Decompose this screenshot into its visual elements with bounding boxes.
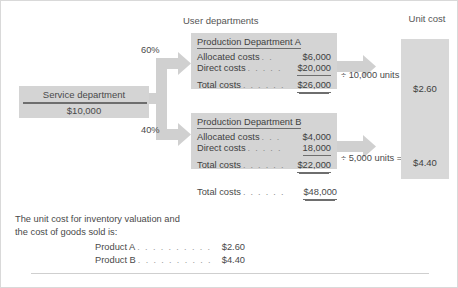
row-value: 18,000 (303, 143, 331, 156)
row-value: $6,000 (303, 52, 331, 64)
user-departments-header: User departments (183, 15, 259, 26)
unit-cost-header: Unit cost (399, 13, 455, 24)
table-row: Direct costs . . . . . $20,000 (197, 63, 331, 76)
row-value: $48,000 (303, 187, 337, 200)
row-value: $20,000 (297, 63, 331, 76)
dot-leader: . . . . . . (243, 187, 301, 199)
row-label: Product B (95, 254, 136, 267)
row-label: Allocated costs (197, 52, 260, 64)
summary-note-line2: the cost of goods sold is: (15, 226, 315, 239)
table-row: Direct costs . . . . . 18,000 (197, 143, 331, 156)
divisor-b: ÷ 5,000 units = (341, 153, 402, 163)
row-label: Total costs (197, 160, 241, 172)
dot-leader: . . . . . . . . . . (137, 241, 219, 254)
list-item: Product A . . . . . . . . . . $2.60 (95, 241, 245, 254)
service-department-divider (23, 102, 147, 104)
row-value: $26,000 (297, 80, 331, 93)
row-label: Allocated costs (197, 132, 260, 144)
divisor-a: ÷ 10,000 units = (341, 70, 407, 80)
service-department-amount: $10,000 (19, 105, 149, 116)
unit-cost-value-b: $4.40 (401, 157, 449, 168)
allocation-percent-b: 40% (141, 125, 160, 135)
row-label: Total costs (197, 187, 241, 199)
production-department-b-box: Production Department B Allocated costs … (191, 113, 337, 169)
bottom-divider (31, 273, 429, 274)
row-label: Direct costs (197, 143, 246, 155)
dot-leader: . . . . . . (243, 160, 295, 172)
table-row: Allocated costs . . . $4,000 (197, 132, 331, 144)
production-department-b-title: Production Department B (197, 117, 301, 129)
cost-allocation-diagram: User departments Unit cost Service depar… (0, 0, 458, 288)
row-value: $2.60 (222, 241, 245, 254)
grand-total-row: Total costs . . . . . . $48,000 (197, 187, 337, 200)
allocation-percent-a: 60% (141, 45, 160, 55)
row-label: Total costs (197, 80, 241, 92)
table-row: Total costs . . . . . . $26,000 (197, 80, 331, 93)
table-row: Total costs . . . . . . $48,000 (197, 187, 337, 200)
production-department-b-content: Production Department B Allocated costs … (191, 113, 337, 169)
row-value: $22,000 (297, 160, 331, 173)
summary-note: The unit cost for inventory valuation an… (15, 213, 315, 266)
summary-note-rows: Product A . . . . . . . . . . $2.60 Prod… (95, 241, 315, 266)
service-department-title: Service department (19, 89, 149, 100)
dot-leader: . . (262, 52, 301, 64)
row-value: $4.40 (222, 254, 245, 267)
dot-leader: . . . . . . (243, 80, 295, 92)
summary-note-line1: The unit cost for inventory valuation an… (15, 213, 315, 226)
unit-cost-value-a: $2.60 (401, 83, 449, 94)
table-row: Total costs . . . . . . $22,000 (197, 160, 331, 173)
list-item: Product B . . . . . . . . . . $4.40 (95, 254, 245, 267)
table-row: Allocated costs . . $6,000 (197, 52, 331, 64)
row-value: $4,000 (303, 132, 331, 144)
production-department-a-title: Production Department A (197, 37, 301, 49)
dot-leader: . . . . . (248, 143, 301, 155)
production-department-a-content: Production Department A Allocated costs … (191, 33, 337, 89)
dot-leader: . . . (262, 132, 301, 144)
dot-leader: . . . . . (248, 63, 296, 75)
dot-leader: . . . . . . . . . . (138, 254, 220, 267)
production-department-a-box: Production Department A Allocated costs … (191, 33, 337, 89)
row-label: Product A (95, 241, 135, 254)
row-label: Direct costs (197, 63, 246, 75)
